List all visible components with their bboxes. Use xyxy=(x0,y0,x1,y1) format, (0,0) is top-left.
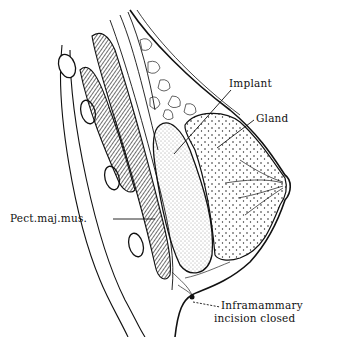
subcutaneous-line xyxy=(137,10,240,115)
label-implant: Implant xyxy=(229,77,272,89)
label-inframammary: Inframammary xyxy=(221,299,303,311)
anatomy-diagram: Implant Gland Pect.maj.mus. Inframammary… xyxy=(0,0,346,337)
inframammary-leader xyxy=(193,302,220,307)
label-incision-closed: incision closed xyxy=(214,312,295,324)
incision-mark xyxy=(190,295,195,300)
diagram-drawing xyxy=(0,0,346,337)
label-gland: Gland xyxy=(256,112,289,124)
label-pect-maj-mus: Pect.maj.mus. xyxy=(10,212,87,224)
